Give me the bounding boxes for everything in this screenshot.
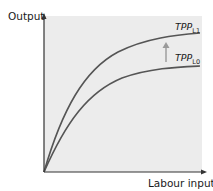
y-axis-label: Output	[8, 10, 44, 22]
x-axis-arrow-icon	[201, 170, 207, 175]
tpp-l0-label-sub: L0	[192, 58, 200, 66]
tpp-chart: Output Labour input TPPL1 TPPL0	[0, 0, 213, 191]
plot-background	[44, 16, 202, 172]
x-axis-label: Labour input	[148, 177, 213, 189]
tpp-l1-label-main: TPP	[175, 21, 193, 32]
tpp-l0-label-main: TPP	[175, 52, 193, 63]
tpp-l1-label-sub: L1	[192, 27, 200, 35]
